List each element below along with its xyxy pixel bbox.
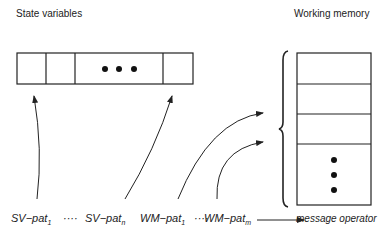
arrow-wm-pat-m (217, 142, 263, 199)
ellipsis-dot (331, 187, 337, 193)
arrow-wm-pat-1 (178, 113, 263, 199)
ellipsis-dot (102, 66, 108, 72)
ellipsis-dot (331, 157, 337, 163)
diagram: State variables Working memory SV−pat1 ·… (0, 0, 388, 246)
wm-pat-m-label: WM−patm (204, 212, 251, 226)
wm-pat-1-label: WM−pat1 (140, 212, 185, 226)
arrow-sv-pat-n (125, 96, 172, 199)
state-vector (17, 53, 193, 84)
sv-pat-1-label: SV−pat1 (11, 212, 51, 226)
state-variables-heading: State variables (16, 8, 82, 19)
message-operator-label: message operator (296, 213, 377, 224)
separator-dots: ···· (63, 212, 78, 224)
curly-brace (279, 51, 288, 207)
working-memory-heading: Working memory (294, 8, 369, 19)
ellipsis-dot (116, 66, 122, 72)
arrow-sv-pat-1 (34, 96, 39, 199)
ellipsis-dot (131, 66, 137, 72)
working-memory-frame (297, 53, 371, 205)
sv-pat-n-label: SV−patn (85, 212, 125, 226)
ellipsis-dot (331, 172, 337, 178)
working-memory-stack (297, 53, 371, 205)
